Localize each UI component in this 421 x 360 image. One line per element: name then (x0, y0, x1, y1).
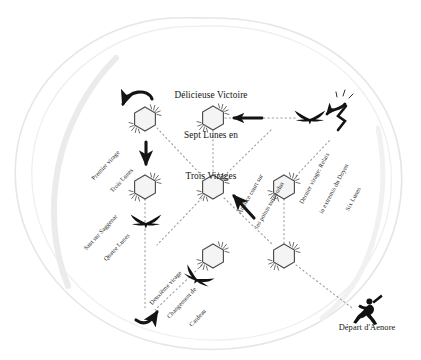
annotation-line: in extremis du Doyen (306, 142, 359, 234)
start-marker-label: Départ d'Aenore (313, 323, 421, 333)
bird-relais (295, 110, 326, 124)
annotation-line: Changement de (152, 271, 211, 333)
running-figure-icon (353, 295, 382, 325)
diagram-canvas: Délicieuse Victoire Sept Lunes en Trois … (0, 0, 421, 360)
title-line-2: Sept Lunes en (146, 129, 276, 142)
title-line-1: Délicieuse Victoire (146, 89, 276, 102)
hex-node-depart-relais[interactable] (268, 242, 300, 270)
path-n7-start (296, 265, 352, 308)
zigzag-relais (338, 106, 346, 130)
relais-sparkle-icon (336, 90, 353, 98)
hex-node-cardeau[interactable] (197, 242, 229, 270)
